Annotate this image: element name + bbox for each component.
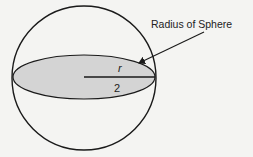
- radius-denominator: 2: [114, 82, 120, 94]
- sphere-diagram: r 2 Radius of Sphere: [0, 0, 253, 157]
- annotation-label: Radius of Sphere: [151, 18, 232, 30]
